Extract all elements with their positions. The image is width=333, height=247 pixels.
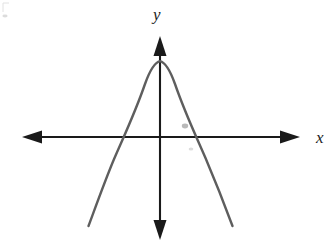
coordinate-plane-svg: y x (0, 0, 333, 247)
y-axis-arrow-up-icon (154, 36, 167, 56)
smudge-upper (182, 124, 188, 129)
corner-mark-artifact (2, 3, 9, 17)
x-axis-arrow-right-icon (280, 131, 300, 144)
parabola-figure: y x (0, 0, 333, 247)
y-axis-arrow-down-icon (154, 220, 167, 240)
x-axis-arrow-left-icon (22, 131, 42, 144)
x-axis-label: x (315, 128, 324, 147)
smudge-lower (189, 147, 194, 150)
y-axis-label: y (151, 5, 161, 24)
